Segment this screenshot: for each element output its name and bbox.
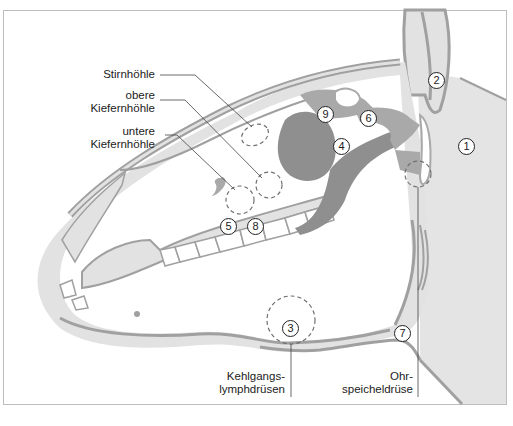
label-text: untere	[60, 125, 155, 138]
marker-5: 5	[220, 218, 237, 235]
label-text: Kehlgangs-	[190, 370, 285, 383]
marker-6: 6	[360, 110, 377, 127]
label-text: Kiefernhöhle	[60, 138, 155, 151]
marker-4: 4	[333, 138, 350, 155]
label-kehlgangslymphdruesen: Kehlgangs- lymphdrüsen	[190, 370, 285, 396]
marker-1: 1	[458, 138, 475, 155]
marker-7: 7	[394, 325, 411, 342]
marker-3: 3	[282, 320, 299, 337]
label-ohrspeicheldruese: Ohr- speicheldrüse	[318, 370, 413, 396]
label-obere-kiefernhoehle: obere Kiefernhöhle	[60, 89, 155, 115]
marker-8: 8	[247, 218, 264, 235]
horse-head-diagram: Stirnhöhle obere Kiefernhöhle untere Kie…	[0, 0, 513, 426]
label-text: Stirnhöhle	[103, 68, 155, 80]
label-untere-kiefernhoehle: untere Kiefernhöhle	[60, 125, 155, 151]
label-text: Kiefernhöhle	[60, 102, 155, 115]
marker-2: 2	[428, 72, 445, 89]
anatomy-drawing	[0, 0, 513, 426]
label-text: lymphdrüsen	[190, 383, 285, 396]
label-text: Ohr-	[318, 370, 413, 383]
marker-9: 9	[317, 106, 334, 123]
label-text: obere	[60, 89, 155, 102]
label-stirnhoehle: Stirnhöhle	[60, 68, 155, 81]
label-text: speicheldrüse	[318, 383, 413, 396]
